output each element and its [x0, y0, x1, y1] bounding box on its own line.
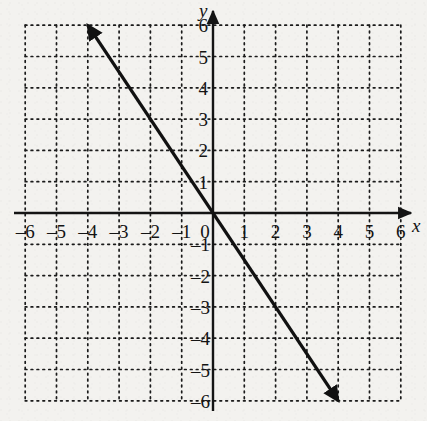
y-tick-label-5: 5 — [199, 47, 209, 66]
y-tick-label--1: –1 — [191, 235, 210, 254]
x-axis-label: x — [412, 216, 420, 235]
x-tick-label-1: 1 — [240, 222, 250, 241]
x-tick-label-2: 2 — [271, 222, 281, 241]
x-tick-label--4: –4 — [78, 222, 97, 241]
x-tick-label--1: –1 — [172, 222, 191, 241]
x-tick-label-6: 6 — [396, 222, 406, 241]
coordinate-plane-chart — [0, 0, 427, 421]
x-tick-label--2: –2 — [141, 222, 160, 241]
y-tick-label--5: –5 — [191, 360, 210, 379]
y-tick-label-3: 3 — [199, 110, 209, 129]
y-tick-label--6: –6 — [191, 391, 210, 410]
x-tick-label--6: –6 — [16, 222, 35, 241]
x-tick-label--3: –3 — [110, 222, 129, 241]
y-tick-label--3: –3 — [191, 297, 210, 316]
x-tick-label--5: –5 — [47, 222, 66, 241]
y-tick-label--2: –2 — [191, 266, 210, 285]
x-tick-label-3: 3 — [302, 222, 312, 241]
x-tick-label-5: 5 — [365, 222, 375, 241]
y-tick-label--4: –4 — [191, 329, 210, 348]
y-tick-label-2: 2 — [199, 141, 209, 160]
y-axis-label: y — [199, 1, 207, 20]
y-tick-label-1: 1 — [199, 172, 209, 191]
x-tick-label-4: 4 — [333, 222, 343, 241]
y-tick-label-4: 4 — [199, 78, 209, 97]
